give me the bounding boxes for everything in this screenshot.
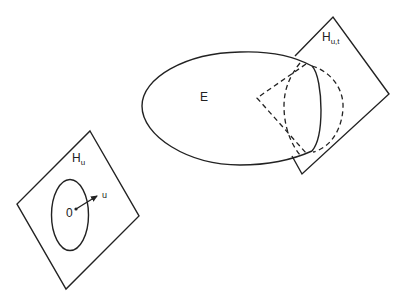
dashed-outer-cap <box>312 66 343 152</box>
label-Hut: Hu,t <box>322 30 340 46</box>
label-E: E <box>200 90 208 104</box>
label-Hu: Hu <box>72 151 85 167</box>
dashed-cone <box>257 64 306 153</box>
dashed-inner-section <box>284 63 300 155</box>
ellipsoid-cap <box>312 66 321 151</box>
hidden-section <box>257 63 343 155</box>
ellipsoid-outline <box>142 52 312 165</box>
label-origin: 0 <box>66 206 73 220</box>
ellipsoid-E <box>142 52 321 165</box>
diagram-canvas: E Hu,t Hu 0 u <box>0 0 403 305</box>
hyperplane-Hut-edges <box>292 17 389 174</box>
label-vector-u: u <box>102 190 107 200</box>
hyperplane-Hut <box>292 17 389 174</box>
